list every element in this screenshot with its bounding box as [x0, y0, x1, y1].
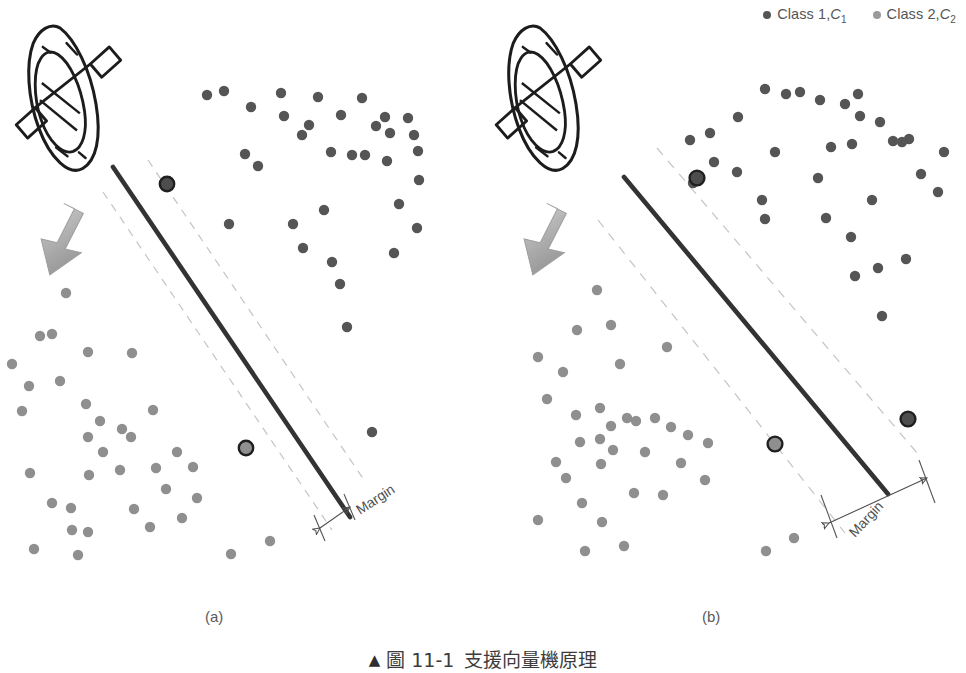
svm-figure-canvas: Margin — [0, 0, 966, 673]
kayak-icon-b — [496, 26, 601, 170]
scatter-class-2-b — [533, 285, 799, 556]
support-vector-b-class1-lower — [901, 412, 916, 427]
support-vector-b-class2 — [768, 437, 783, 452]
support-vector-b-class1-upper — [690, 171, 705, 186]
scatter-class-1-a — [202, 86, 424, 437]
margin-line-a-lower — [103, 192, 332, 530]
support-vector-a-class1 — [160, 177, 174, 191]
scatter-class-1-b — [685, 84, 949, 321]
panel-label-b: (b) — [702, 608, 720, 625]
scatter-class-2-a — [7, 288, 275, 560]
panel-a: Margin — [7, 26, 424, 560]
margin-line-b-lower — [598, 220, 845, 533]
kayak-icon-a — [16, 26, 121, 170]
panel-b: Margin — [496, 26, 949, 556]
margin-line-a-upper — [148, 160, 364, 480]
decision-boundary-b — [624, 177, 888, 494]
support-vector-a-class2 — [239, 441, 253, 455]
margin-label-a: Margin — [353, 481, 398, 518]
caption-title: 支援向量機原理 — [464, 649, 597, 671]
margin-label-b: Margin — [845, 498, 886, 540]
direction-arrow-b — [511, 202, 580, 283]
figure-root: Class 1,C1 Class 2,C2 — [0, 0, 966, 673]
panel-label-a: (a) — [205, 608, 223, 625]
caption-triangle-icon: ▲ — [369, 651, 381, 669]
margin-line-b-upper — [657, 148, 918, 454]
margin-indicator-b — [821, 460, 935, 538]
figure-caption: ▲圖 11-1支援向量機原理 — [0, 645, 966, 672]
caption-number: 圖 11-1 — [386, 649, 454, 671]
direction-arrow-a — [28, 202, 97, 283]
